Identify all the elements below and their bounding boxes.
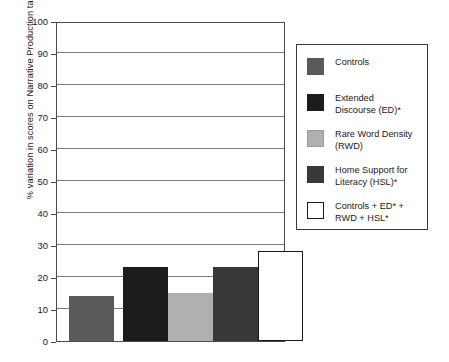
- y-tick-label-30: 30: [18, 241, 48, 250]
- bar-1: [69, 296, 114, 341]
- bar-5: [258, 251, 303, 341]
- gridline-40: [57, 212, 284, 213]
- bar-3: [168, 293, 213, 341]
- y-tick-label-90: 90: [18, 49, 48, 58]
- legend-swatch-icon: [307, 202, 324, 219]
- gridline-30: [57, 244, 284, 245]
- bar-4: [213, 267, 258, 341]
- y-tick-label-0: 0: [18, 337, 48, 346]
- legend-item-label: Controls: [335, 57, 369, 69]
- legend-item-1[interactable]: Controls: [307, 57, 369, 75]
- y-tick-label-100: 100: [18, 17, 48, 26]
- legend-item-5[interactable]: Controls + ED* + RWD + HSL*: [307, 201, 404, 224]
- y-tick-label-50: 50: [18, 177, 48, 186]
- y-tick-label-70: 70: [18, 113, 48, 122]
- legend-swatch-icon: [307, 130, 324, 147]
- plot-area: [56, 22, 285, 342]
- gridline-90: [57, 52, 284, 53]
- gridline-70: [57, 116, 284, 117]
- y-tick-label-60: 60: [18, 145, 48, 154]
- gridline-80: [57, 84, 284, 85]
- y-tick-mark-0: [51, 342, 56, 343]
- legend-swatch-icon: [307, 58, 324, 75]
- gridline-50: [57, 180, 284, 181]
- legend-item-label: Controls + ED* + RWD + HSL*: [335, 201, 404, 224]
- y-tick-label-80: 80: [18, 81, 48, 90]
- legend-item-4[interactable]: Home Support for Literacy (HSL)*: [307, 165, 408, 188]
- y-tick-label-40: 40: [18, 209, 48, 218]
- legend-item-label: Extended Discourse (ED)*: [335, 93, 401, 116]
- legend-swatch-icon: [307, 166, 324, 183]
- bar-2: [123, 267, 168, 341]
- legend-item-2[interactable]: Extended Discourse (ED)*: [307, 93, 401, 116]
- legend-item-label: Home Support for Literacy (HSL)*: [335, 165, 408, 188]
- legend-item-label: Rare Word Density (RWD): [335, 129, 412, 152]
- legend-box: ControlsExtended Discourse (ED)*Rare Wor…: [296, 44, 428, 230]
- y-tick-label-10: 10: [18, 305, 48, 314]
- legend-item-3[interactable]: Rare Word Density (RWD): [307, 129, 412, 152]
- legend-swatch-icon: [307, 94, 324, 111]
- y-tick-label-20: 20: [18, 273, 48, 282]
- gridline-60: [57, 148, 284, 149]
- bar-chart-figure: % variation in scores on Narrative Produ…: [0, 0, 449, 362]
